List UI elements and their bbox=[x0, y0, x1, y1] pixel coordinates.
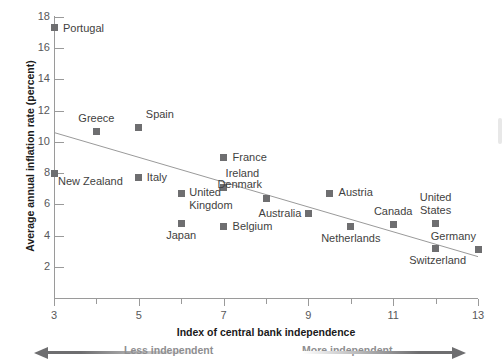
more-independent-label: More independent bbox=[302, 344, 392, 356]
arrow-left-icon bbox=[34, 347, 48, 359]
data-point-marker bbox=[347, 223, 354, 230]
data-point-label: Germany bbox=[431, 230, 476, 243]
data-point-marker bbox=[220, 154, 227, 161]
data-point-marker bbox=[432, 220, 439, 227]
data-point-marker bbox=[51, 24, 58, 31]
data-point-label: Canada bbox=[374, 205, 413, 218]
data-point-label: Belgium bbox=[233, 220, 273, 233]
data-point-marker bbox=[263, 195, 270, 202]
data-point-label: Australia bbox=[259, 207, 302, 220]
less-independent-label: Less independent bbox=[124, 344, 213, 356]
data-point-label: Switzerland bbox=[409, 254, 466, 267]
arrow-right-bar bbox=[302, 351, 452, 354]
data-point-label: Austria bbox=[339, 186, 373, 199]
data-point-marker bbox=[135, 174, 142, 181]
data-point-label: Denmark bbox=[217, 178, 262, 191]
data-point-label: Japan bbox=[166, 229, 196, 242]
data-point-marker bbox=[432, 245, 439, 252]
data-point-label: United States bbox=[420, 191, 452, 216]
data-point-label: Netherlands bbox=[321, 232, 380, 245]
data-point-label: New Zealand bbox=[58, 175, 123, 188]
data-point-label: France bbox=[233, 151, 267, 164]
data-point-marker bbox=[178, 190, 185, 197]
scatter-chart: Average annual inflation rate (percent) … bbox=[0, 0, 503, 364]
data-point-marker bbox=[178, 220, 185, 227]
data-point-marker bbox=[93, 128, 100, 135]
data-point-marker bbox=[475, 246, 482, 253]
data-point-marker bbox=[326, 190, 333, 197]
data-point-label: Greece bbox=[78, 112, 114, 125]
data-point-marker bbox=[390, 221, 397, 228]
data-point-marker bbox=[135, 124, 142, 131]
edge-artifact bbox=[498, 118, 502, 144]
arrow-right-icon bbox=[452, 347, 466, 359]
data-point-marker bbox=[51, 170, 58, 177]
data-point-label: Spain bbox=[146, 108, 174, 121]
data-point-marker bbox=[220, 223, 227, 230]
data-point-marker bbox=[305, 210, 312, 217]
independence-scale-annotation: Less independent More independent bbox=[0, 341, 503, 361]
data-point-label: Italy bbox=[147, 171, 167, 184]
data-point-label: Portugal bbox=[63, 22, 104, 35]
